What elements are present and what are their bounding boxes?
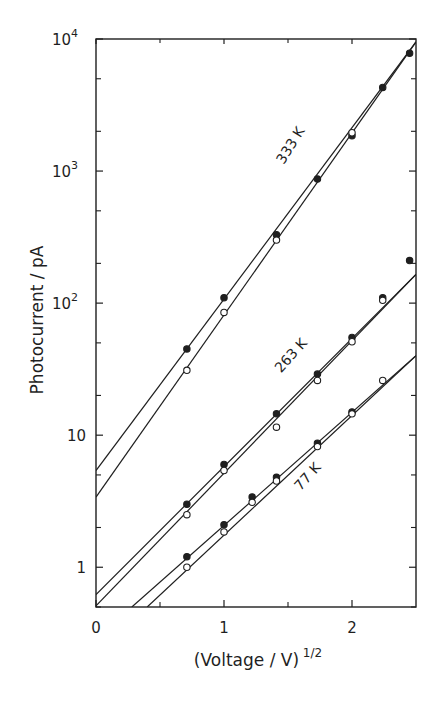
y-tick-label: 1	[76, 559, 86, 577]
open-marker	[349, 411, 355, 417]
x-axis-title: (Voltage / V) 1/2	[194, 646, 322, 670]
open-marker	[221, 309, 227, 315]
temperature-label: 263 K	[271, 334, 310, 375]
temperature-label: 77 K	[291, 459, 324, 494]
fit-lines	[96, 42, 416, 607]
x-tick-label: 0	[91, 619, 101, 637]
open-marker	[273, 237, 279, 243]
open-marker	[349, 339, 355, 345]
filled-marker	[221, 521, 227, 527]
filled-marker	[314, 176, 320, 182]
filled-marker	[184, 554, 190, 560]
open-marker	[273, 478, 279, 484]
fit-line	[96, 274, 416, 605]
open-marker	[273, 424, 279, 430]
fit-line	[96, 42, 416, 497]
tick-labels: 012110102103104	[52, 27, 357, 637]
y-tick-label: 102	[52, 291, 78, 313]
filled-marker	[184, 501, 190, 507]
open-marker	[184, 367, 190, 373]
open-marker	[221, 467, 227, 473]
temperature-label: 333 K	[273, 123, 308, 166]
filled-marker	[184, 346, 190, 352]
open-marker	[314, 443, 320, 449]
open-marker	[184, 564, 190, 570]
filled-marker	[406, 257, 412, 263]
open-marker	[249, 499, 255, 505]
x-tick-label: 2	[347, 619, 357, 637]
filled-marker	[221, 294, 227, 300]
open-marker	[221, 529, 227, 535]
y-tick-label: 104	[52, 27, 78, 49]
y-tick-label: 10	[67, 427, 86, 445]
open-marker	[184, 511, 190, 517]
filled-marker	[406, 50, 412, 56]
open-marker	[380, 377, 386, 383]
open-marker	[380, 297, 386, 303]
filled-marker	[221, 461, 227, 467]
filled-marker	[273, 411, 279, 417]
filled-marker	[380, 84, 386, 90]
x-tick-label: 1	[219, 619, 229, 637]
open-marker	[349, 130, 355, 136]
fit-line	[96, 274, 416, 594]
y-axis-title: Photocurrent / pA	[27, 245, 47, 394]
filled-marker	[314, 371, 320, 377]
chart: 333 K263 K77 K 012110102103104 (Voltage …	[0, 0, 430, 711]
fit-line	[96, 42, 416, 471]
y-tick-label: 103	[52, 159, 78, 181]
open-marker	[314, 377, 320, 383]
